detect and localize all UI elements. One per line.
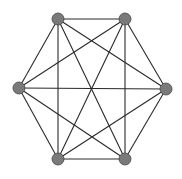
complete-graph-diagram — [0, 0, 182, 179]
graph-edges — [19, 19, 166, 159]
node-top-left — [52, 13, 64, 25]
node-top-right — [119, 13, 131, 25]
edge-top-right-left — [19, 19, 125, 88]
node-bottom-right — [119, 153, 131, 165]
edge-top-left-left — [19, 19, 58, 88]
edge-bottom-left-left — [19, 88, 58, 159]
edge-right-bottom-right — [125, 89, 166, 159]
node-bottom-left — [52, 153, 64, 165]
edge-right-left — [19, 88, 166, 89]
edge-bottom-right-left — [19, 88, 125, 159]
edge-top-right-right — [125, 19, 166, 89]
node-left — [13, 82, 25, 94]
node-right — [160, 83, 172, 95]
